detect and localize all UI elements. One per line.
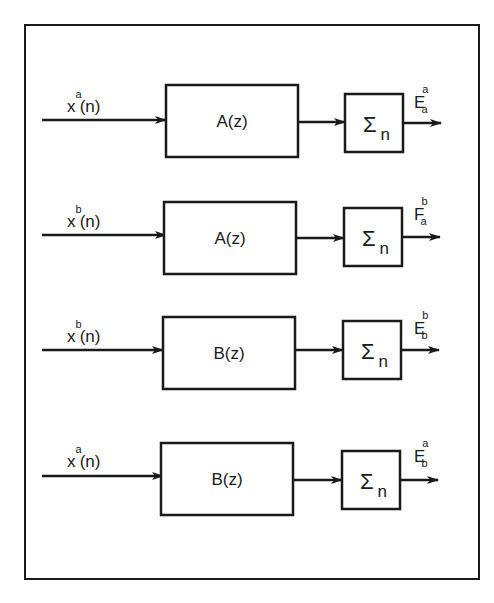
row-4: xa(n) B(z) Σn Eab xyxy=(42,437,438,515)
input-label: xb(n) xyxy=(67,318,100,346)
output-label: Eaa xyxy=(414,83,429,115)
row-2: xb(n) A(z) Σn Fba xyxy=(42,195,440,274)
input-label: xa(n) xyxy=(67,88,100,116)
output-label: Eab xyxy=(414,437,429,469)
input-label: xb(n) xyxy=(67,203,100,231)
filter-label: B(z) xyxy=(213,344,244,363)
output-label: Fba xyxy=(414,195,428,227)
output-label: Ebb xyxy=(414,309,428,341)
filter-label: B(z) xyxy=(211,470,242,489)
block-diagram: xa(n) A(z) Σn Eaa xb(n) A(z) Σn Fba xyxy=(0,0,494,603)
row-3: xb(n) B(z) Σn Ebb xyxy=(42,309,439,389)
filter-label: A(z) xyxy=(216,112,247,131)
filter-label: A(z) xyxy=(214,229,245,248)
input-label: xa(n) xyxy=(67,443,100,471)
row-1: xa(n) A(z) Σn Eaa xyxy=(42,83,441,157)
